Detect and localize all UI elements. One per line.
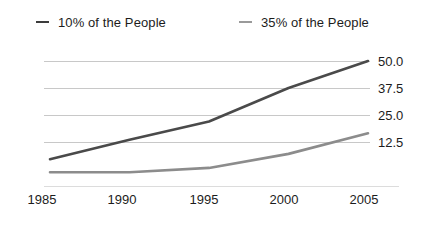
- x-tick-label-1990: 1990: [92, 193, 152, 206]
- y-tick-label-25: 25.0: [378, 109, 403, 122]
- series-line-35-percent: [50, 133, 368, 172]
- x-tick-label-1995: 1995: [174, 193, 234, 206]
- x-tick-label-2000: 2000: [254, 193, 314, 206]
- x-tick-label-1985: 1985: [12, 193, 72, 206]
- y-tick-label-12-5: 12.5: [378, 136, 403, 149]
- y-tick-label-37-5: 37.5: [378, 82, 403, 95]
- x-tick-label-2005: 2005: [334, 193, 394, 206]
- y-tick-label-50: 50.0: [378, 55, 403, 68]
- line-chart: 10% of the People 35% of the People 50.0…: [0, 0, 442, 225]
